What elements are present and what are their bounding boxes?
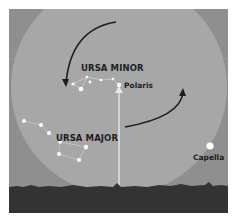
capella-star [206,142,213,149]
ursa-minor-label: URSA MINOR [81,63,144,73]
sky-diagram: URSA MINOR Polaris URSA MAJOR Capella [9,9,228,213]
polaris-star [117,83,121,87]
polaris-label: Polaris [124,81,153,90]
capella-label: Capella [193,153,224,162]
sky-svg [9,9,228,213]
ursa-major-label: URSA MAJOR [56,133,118,143]
